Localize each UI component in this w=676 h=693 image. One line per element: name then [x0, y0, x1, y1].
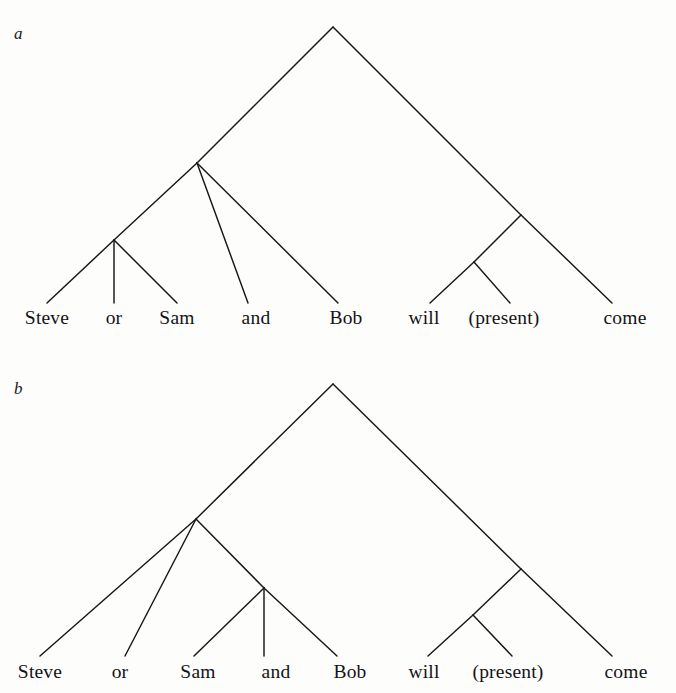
leaf-label: and — [262, 661, 291, 683]
leaf-label: (present) — [468, 307, 539, 329]
tree-edge — [197, 27, 333, 163]
tree-edge — [264, 588, 337, 656]
leaf-label: will — [408, 661, 439, 683]
leaf-label: will — [408, 307, 439, 329]
leaf-label: or — [106, 307, 123, 329]
leaf-label: Steve — [25, 307, 69, 329]
tree-edge — [521, 569, 612, 656]
figure-container: a SteveorSamandBobwill(present)come b St… — [0, 0, 676, 693]
leaf-label: Bob — [333, 661, 366, 683]
tree-edge — [125, 519, 196, 656]
tree-edge — [197, 163, 338, 303]
tree-edge — [521, 215, 612, 303]
leaf-label: (present) — [472, 661, 543, 683]
tree-edges-a — [0, 0, 676, 350]
tree-edge — [333, 27, 521, 215]
tree-edge — [473, 615, 512, 656]
tree-panel-b: SteveorSamandBobwill(present)come — [0, 350, 676, 693]
tree-edge — [196, 519, 264, 588]
tree-edge — [474, 215, 521, 262]
tree-edge — [474, 262, 510, 303]
tree-edge — [47, 240, 114, 303]
tree-edge — [333, 384, 521, 569]
leaf-label: come — [604, 661, 647, 683]
tree-edge — [428, 615, 473, 656]
leaf-label: come — [603, 307, 646, 329]
tree-edge — [40, 519, 196, 656]
tree-edge — [196, 384, 333, 519]
tree-edge — [114, 240, 177, 303]
leaf-label: Sam — [180, 661, 215, 683]
leaf-label: Steve — [18, 661, 62, 683]
tree-edge — [114, 163, 197, 240]
leaf-label: Bob — [329, 307, 362, 329]
leaf-label: Sam — [159, 307, 194, 329]
tree-panel-a: SteveorSamandBobwill(present)come — [0, 0, 676, 350]
leaf-label: and — [242, 307, 271, 329]
tree-edge — [430, 262, 474, 303]
tree-edge — [194, 588, 264, 656]
leaf-label: or — [112, 661, 129, 683]
tree-edge — [197, 163, 248, 303]
tree-edges-b — [0, 350, 676, 693]
tree-edge — [473, 569, 521, 615]
